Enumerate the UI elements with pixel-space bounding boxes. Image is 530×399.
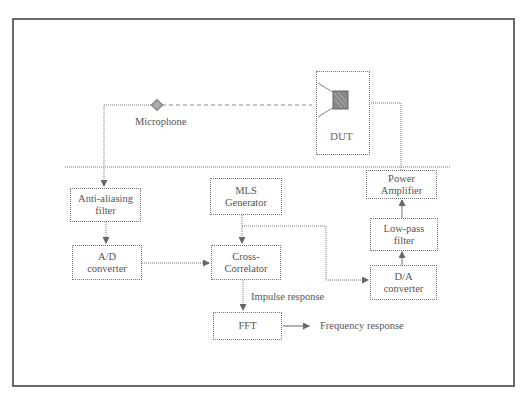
block-label: Low-pass bbox=[384, 223, 425, 235]
power-amplifier-block: Power Amplifier bbox=[366, 170, 437, 199]
block-label: FFT bbox=[238, 320, 256, 332]
low-pass-filter-block: Low-pass filter bbox=[370, 218, 438, 251]
block-label: A/D bbox=[98, 251, 116, 263]
block-label: converter bbox=[384, 283, 424, 295]
block-label: converter bbox=[87, 263, 127, 275]
microphone-label: Microphone bbox=[135, 116, 186, 127]
block-label: MLS bbox=[235, 185, 257, 197]
cross-correlator-block: Cross- Correlator bbox=[211, 245, 281, 280]
block-label: D/A bbox=[394, 271, 412, 283]
block-label: Cross- bbox=[232, 251, 259, 263]
fft-block: FFT bbox=[213, 312, 282, 340]
block-label: Correlator bbox=[224, 263, 267, 275]
loudspeaker-icon bbox=[316, 71, 370, 155]
frequency-response-label: Frequency response bbox=[320, 320, 404, 331]
block-label: filter bbox=[95, 205, 115, 217]
block-label: filter bbox=[394, 235, 414, 247]
microphone-diamond-icon bbox=[151, 99, 162, 110]
da-converter-block: D/A converter bbox=[370, 265, 437, 300]
ad-converter-block: A/D converter bbox=[72, 245, 142, 280]
block-label: Generator bbox=[225, 197, 267, 209]
block-label: Amplifier bbox=[381, 185, 422, 197]
impulse-response-label: Impulse response bbox=[251, 291, 324, 302]
block-label: Anti-aliasing bbox=[78, 193, 133, 205]
anti-aliasing-filter-block: Anti-aliasing filter bbox=[70, 188, 141, 222]
dut-label: DUT bbox=[330, 130, 353, 142]
mls-generator-block: MLS Generator bbox=[210, 178, 282, 215]
block-label: Power bbox=[388, 173, 415, 185]
